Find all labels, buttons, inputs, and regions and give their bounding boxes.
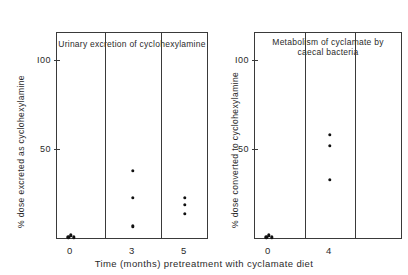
panel-title-right: Metabolism of cyclamate by caecal bacter…: [255, 37, 401, 57]
y-axis-tick: [54, 60, 60, 61]
data-point: [72, 236, 75, 239]
y-axis-tick-label: I00: [235, 55, 249, 65]
x-axis-tick-label: 0: [265, 245, 271, 256]
data-point: [131, 196, 134, 199]
panel-urinary-excretion: % dose excreted as cyclohexylamine Urina…: [0, 0, 216, 275]
y-axis-tick-label: 50: [40, 144, 51, 154]
data-point: [328, 178, 331, 181]
y-axis-tick-label: I00: [37, 55, 51, 65]
x-axis-tick-label: 5: [181, 245, 187, 256]
x-axis-tick-label: 4: [326, 245, 332, 256]
x-axis-tick-label: 3: [129, 245, 135, 256]
data-point: [183, 196, 186, 199]
column-separator-left-2: [161, 33, 162, 238]
data-point: [183, 203, 186, 206]
plot-frame-right: Metabolism of cyclamate by caecal bacter…: [254, 32, 402, 239]
y-axis-tick-label: 50: [238, 144, 249, 154]
data-point: [270, 236, 273, 239]
data-point: [328, 144, 331, 147]
y-axis-label-left: % dose excreted as cyclohexylamine: [16, 75, 26, 228]
column-separator-right-1: [305, 33, 306, 238]
data-point: [183, 212, 186, 215]
x-axis-label: Time (months) pretreatment with cyclamat…: [0, 258, 408, 269]
panel-title-left: Urinary excretion of cyclohexylamine: [57, 39, 207, 49]
data-point: [131, 225, 134, 228]
y-axis-tick: [54, 149, 60, 150]
plot-frame-left: Urinary excretion of cyclohexylamine 50I…: [56, 32, 208, 239]
y-axis-tick: [252, 149, 258, 150]
x-axis-tick-label: 0: [67, 245, 73, 256]
data-point: [131, 169, 134, 172]
column-separator-right-2: [355, 33, 356, 238]
column-separator-left-1: [105, 33, 106, 238]
data-point: [328, 133, 331, 136]
panel-caecal-metabolism: % dose converted to cyclohexylamine Meta…: [216, 0, 408, 275]
figure-root: % dose excreted as cyclohexylamine Urina…: [0, 0, 408, 275]
y-axis-tick: [252, 60, 258, 61]
